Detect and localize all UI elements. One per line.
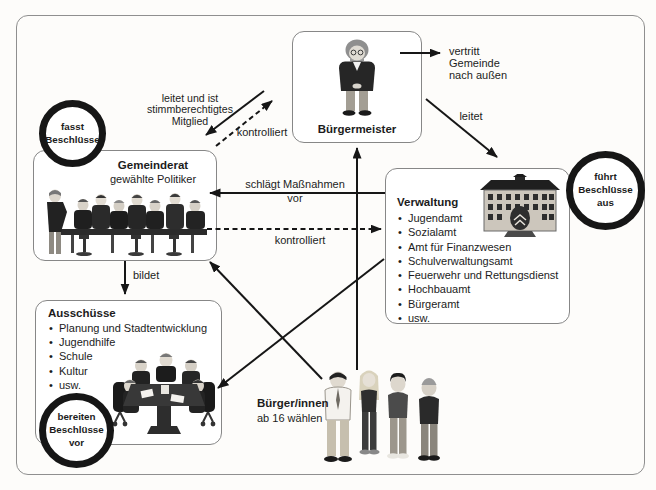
- node-gemeinderat: Gemeinderat gewählte Politiker: [33, 150, 217, 261]
- gemeinderat-subtitle: gewählte Politiker: [90, 172, 216, 186]
- buerger-subtitle: ab 16 wählen: [257, 411, 329, 426]
- verwaltung-list-item: Schulverwaltungsamt: [397, 254, 558, 268]
- label-leitet-mitglied: leitet und ist stimmberechtigtes Mitglie…: [136, 93, 244, 127]
- badge-fuehrt-beschluesse-aus: führt Beschlüsse aus: [566, 151, 645, 230]
- verwaltung-list-item: Jugendamt: [397, 211, 558, 225]
- verwaltung-list: JugendamtSozialamtAmt für FinanzwesenSch…: [397, 211, 558, 325]
- gemeinderat-title: Gemeinderat: [90, 158, 216, 172]
- label-leitet: leitet: [448, 110, 494, 122]
- committee-illustration: [111, 348, 217, 440]
- badge-bereiten-beschluesse-vor: bereiten Beschlüsse vor: [39, 393, 114, 468]
- label-kontrolliert-buergermeister: kontrolliert: [225, 126, 299, 138]
- node-verwaltung: Verwaltung JugendamtSozialamtAmt für Fin…: [385, 168, 570, 324]
- verwaltung-list-item: usw.: [397, 311, 558, 325]
- node-buergermeister: Bürgermeister: [292, 31, 422, 143]
- verwaltung-title: Verwaltung: [397, 196, 458, 208]
- verwaltung-list-item: Sozialamt: [397, 225, 558, 239]
- verwaltung-list-item: Bürgeramt: [397, 297, 558, 311]
- mayor-illustration: [330, 38, 384, 118]
- verwaltung-list-item: Amt für Finanzwesen: [397, 240, 558, 254]
- label-schlaegt-massnahmen: schlägt Maßnahmen vor: [235, 177, 355, 205]
- council-illustration: [41, 186, 211, 258]
- verwaltung-list-item: Hochbauamt: [397, 282, 558, 296]
- buerger-title: Bürger/innen: [257, 396, 329, 411]
- ausschuesse-title: Ausschüsse: [48, 307, 116, 319]
- badge-fasst-beschluesse: fasst Beschlüsse: [39, 100, 106, 167]
- label-vertritt: vertritt Gemeinde nach außen: [449, 45, 527, 81]
- citizens-illustration: [316, 366, 448, 474]
- organigram-kommunalpolitik: Bürgermeister Gemeinderat gewählte Polit…: [0, 0, 656, 490]
- verwaltung-list-item: Feuerwehr und Rettungsdienst: [397, 268, 558, 282]
- ausschuesse-list-item: Planung und Stadtentwicklung: [48, 321, 218, 335]
- buergermeister-title: Bürgermeister: [293, 123, 421, 135]
- label-kontrolliert-verwaltung: kontrolliert: [263, 234, 337, 246]
- citizens-label: Bürger/innen ab 16 wählen: [257, 396, 329, 426]
- label-bildet: bildet: [133, 269, 177, 281]
